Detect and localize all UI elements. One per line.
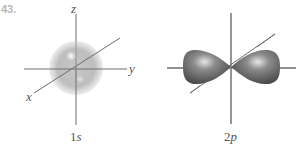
orbital-2p: 2p bbox=[167, 13, 296, 144]
x-axis-label: x bbox=[25, 89, 32, 104]
depth-axis-2p-lower-visible bbox=[190, 86, 200, 93]
z-axis-label: z bbox=[70, 1, 76, 16]
orbital-letter: s bbox=[77, 129, 82, 144]
depth-axis-2p-upper-visible bbox=[257, 34, 275, 47]
lobe-right bbox=[231, 50, 280, 84]
lobe-left bbox=[183, 50, 231, 84]
caption-1s: 1s bbox=[70, 129, 82, 144]
sphere-highlight-upper bbox=[66, 51, 76, 61]
orbital-letter: p bbox=[230, 129, 238, 144]
orbital-diagram: 43. z y x 1s 2p bbox=[0, 0, 303, 150]
sphere-highlight-lower bbox=[76, 75, 84, 83]
caption-2p: 2p bbox=[224, 129, 238, 144]
y-axis-label: y bbox=[127, 61, 135, 76]
problem-number: 43. bbox=[1, 3, 16, 15]
orbital-1s: z y x 1s bbox=[24, 1, 135, 144]
